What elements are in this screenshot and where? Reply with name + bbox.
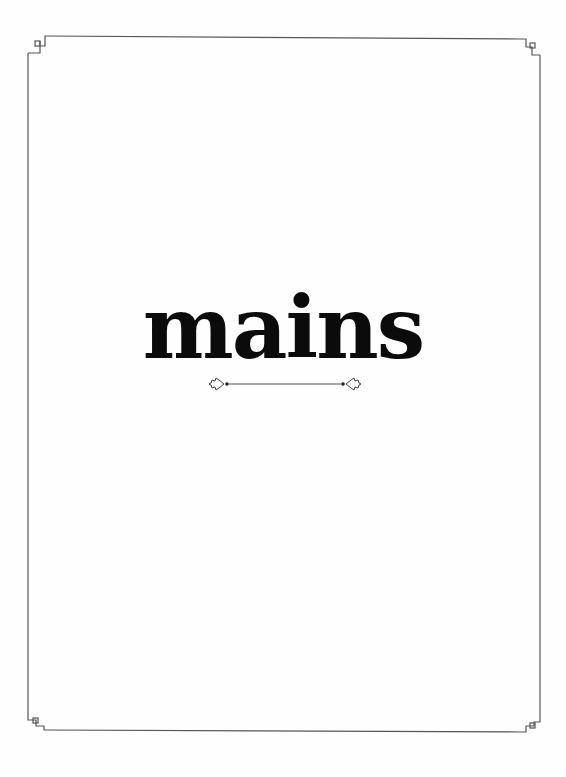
- fleuron-divider-icon: [205, 374, 365, 394]
- corner-top-left-icon: [28, 36, 47, 53]
- section-title-page: mains: [0, 0, 566, 777]
- left-dot-icon: [225, 382, 229, 386]
- corner-top-right-icon: [520, 39, 540, 55]
- frame-bottom-line: [47, 730, 520, 732]
- left-fleuron-icon: [209, 378, 224, 390]
- corner-bottom-left-icon: [28, 716, 47, 730]
- page-title: mains: [0, 278, 566, 378]
- right-dot-icon: [341, 382, 345, 386]
- corner-bottom-right-icon: [520, 716, 540, 732]
- frame-top-line: [47, 36, 520, 39]
- right-fleuron-icon: [346, 378, 361, 390]
